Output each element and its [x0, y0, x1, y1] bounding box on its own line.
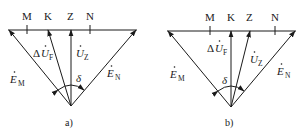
vector-delta-uf: [48, 30, 71, 106]
phasor-diagrams: M K Z N Δ U F U Z E M E N δ a): [0, 0, 303, 140]
dot-mark: [111, 65, 113, 67]
label-em: E M: [9, 71, 25, 88]
svg-text:N: N: [285, 71, 291, 80]
svg-text:Δ: Δ: [207, 42, 214, 54]
label-k: K: [227, 11, 235, 23]
label-n: N: [86, 10, 94, 22]
label-delta-angle: δ: [222, 74, 228, 86]
label-n: N: [271, 11, 279, 23]
diagram-a: M K Z N Δ U F U Z E M E N δ a): [8, 10, 137, 129]
svg-text:Δ: Δ: [33, 47, 40, 59]
label-delta-uf: Δ U F: [207, 40, 227, 57]
svg-text:F: F: [223, 48, 227, 57]
label-em: E M: [169, 66, 185, 83]
label-uz: U Z: [76, 45, 89, 62]
dot-mark: [174, 66, 176, 68]
label-z: Z: [67, 10, 74, 22]
dot-mark: [219, 40, 221, 42]
label-delta-angle: δ: [76, 72, 82, 84]
vector-em: [9, 30, 71, 106]
svg-text:E: E: [106, 67, 114, 79]
svg-text:Z: Z: [258, 59, 263, 68]
svg-text:M: M: [178, 74, 185, 83]
label-uz: U Z: [250, 51, 263, 68]
diagram-b: M K Z N Δ U F U Z E M E N δ b): [167, 11, 296, 129]
label-en: E N: [276, 63, 291, 80]
label-k: K: [44, 10, 52, 22]
caption-a: a): [65, 117, 73, 129]
dot-mark: [80, 45, 82, 47]
vector-en: [71, 30, 136, 106]
label-z: Z: [246, 11, 253, 23]
svg-text:E: E: [9, 73, 17, 85]
label-delta-uf: Δ U F: [33, 45, 53, 62]
dot-mark: [254, 51, 256, 53]
svg-text:M: M: [18, 79, 25, 88]
dot-mark: [281, 63, 283, 65]
label-m: M: [205, 11, 215, 23]
svg-text:F: F: [49, 53, 53, 62]
svg-text:E: E: [169, 68, 177, 80]
svg-text:E: E: [276, 65, 284, 77]
dot-mark: [14, 71, 16, 73]
dot-mark: [45, 45, 47, 47]
svg-text:Z: Z: [84, 53, 89, 62]
caption-b: b): [225, 117, 233, 129]
label-m: M: [22, 10, 32, 22]
svg-text:N: N: [115, 73, 121, 82]
label-en: E N: [106, 65, 121, 82]
